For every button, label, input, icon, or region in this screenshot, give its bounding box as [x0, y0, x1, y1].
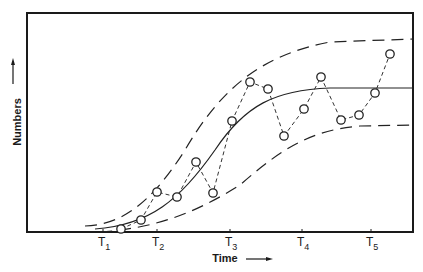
x-tick-label: T2	[152, 235, 164, 252]
y-axis-title: Numbers	[11, 98, 23, 146]
x-axis-label: Time	[212, 252, 237, 264]
data-points-group	[117, 50, 394, 233]
data-point-marker	[355, 111, 363, 119]
upper-bound-line	[85, 39, 413, 226]
plot-frame	[27, 13, 413, 232]
observed-line	[121, 54, 390, 229]
x-tick-label: T4	[297, 235, 309, 252]
data-point-marker	[300, 105, 308, 113]
y-axis-label: Numbers	[11, 98, 23, 146]
data-point-marker	[209, 189, 217, 197]
data-point-marker	[117, 225, 125, 233]
data-point-marker	[386, 50, 394, 58]
data-point-marker	[192, 158, 200, 166]
up-arrow-icon	[11, 58, 15, 84]
data-point-marker	[371, 89, 379, 97]
data-point-marker	[228, 117, 236, 125]
x-tick-label: T3	[225, 235, 237, 252]
data-point-marker	[317, 73, 325, 81]
x-tick-label: T1	[98, 235, 110, 252]
logistic-growth-chart: T1T2T3T4T5 Numbers Time	[0, 0, 423, 272]
data-point-marker	[153, 188, 161, 196]
mean-logistic-curve-line	[95, 88, 413, 229]
data-point-marker	[337, 116, 345, 124]
data-point-marker	[280, 132, 288, 140]
data-point-marker	[246, 78, 254, 86]
right-arrow-icon	[246, 257, 273, 261]
data-point-marker	[173, 193, 181, 201]
curves-group	[85, 39, 413, 232]
data-point-marker	[137, 216, 145, 224]
x-tick-label: T5	[366, 235, 378, 252]
data-point-marker	[264, 85, 272, 93]
